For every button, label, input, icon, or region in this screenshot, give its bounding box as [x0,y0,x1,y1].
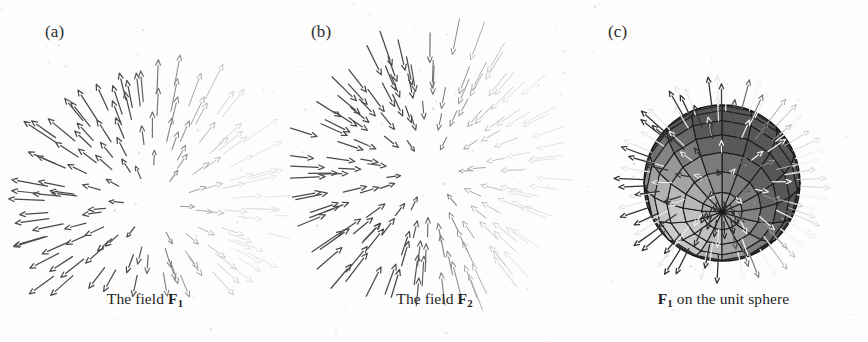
figure-container: (a) The field F1 (b) The field F2 (c) F1… [0,0,868,342]
panel-c-caption: F1 on the unit sphere [579,290,868,309]
panel-a: (a) The field F1 [0,0,290,342]
panel-b: (b) The field F2 [290,0,579,342]
panel-c: (c) F1 on the unit sphere [579,0,868,342]
panel-a-caption: The field F1 [0,290,290,309]
panel-b-caption: The field F2 [290,290,579,309]
